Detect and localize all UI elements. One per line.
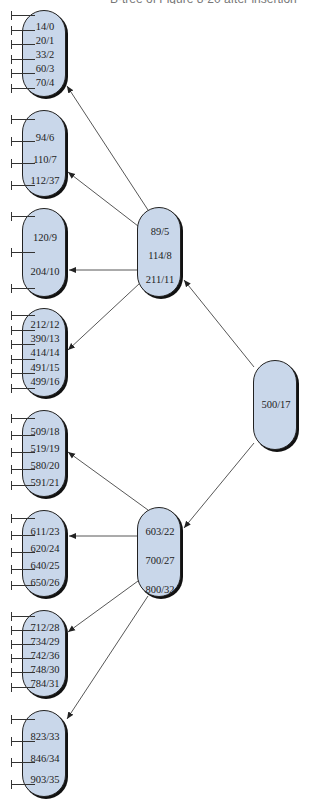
node-key: 94/6 [23, 132, 67, 144]
pointer-stub [11, 59, 35, 60]
leaf-node-1: 14/0 20/1 33/2 60/3 70/4 [22, 10, 66, 97]
edge-internal1-to-leaf2 [68, 172, 138, 226]
pointer-stub [11, 216, 35, 217]
pointer-stub [11, 518, 35, 519]
edge-internal2-to-leaf8 [67, 596, 148, 719]
pointer-stub [11, 418, 35, 419]
node-key: 519/19 [23, 443, 67, 455]
leaf-node-2: 94/6 110/7 112/37 [22, 110, 66, 197]
pointer-stub [11, 741, 35, 742]
pointer-stub [11, 252, 35, 253]
pointer-stub [11, 73, 35, 74]
pointer-stub [11, 315, 35, 316]
leaf-node-4: 212/12 390/13 414/14 491/15 499/16 [22, 308, 66, 397]
pointer-stub [11, 388, 35, 389]
pointer-stub [11, 163, 35, 164]
node-key: 591/21 [23, 477, 67, 489]
leaf-node-6: 611/23 620/24 640/25 650/26 [22, 510, 66, 597]
pointer-stub [11, 344, 35, 345]
leaf-node-7: 712/28 734/29 742/36 748/30 784/31 [22, 610, 66, 697]
pointer-stub [11, 88, 35, 89]
edge-root-to-internal-2 [184, 443, 254, 528]
edge-internal2-to-leaf5 [68, 452, 148, 510]
internal-node-2: 603/22 700/27 800/32 [137, 507, 181, 597]
node-key: 120/9 [23, 232, 67, 244]
pointer-stub [11, 672, 35, 673]
edge-internal1-to-leaf4 [68, 283, 140, 350]
node-key: 414/14 [23, 347, 67, 359]
pointer-stub [11, 469, 35, 470]
node-key: 110/7 [23, 154, 67, 166]
node-key: 700/27 [138, 555, 182, 567]
node-key: 509/18 [23, 426, 67, 438]
node-key: 204/10 [23, 266, 67, 278]
pointer-stub [11, 185, 35, 186]
node-key: 846/34 [23, 753, 67, 765]
pointer-stub [11, 630, 35, 631]
pointer-stub [11, 141, 35, 142]
node-key: 784/31 [23, 678, 67, 690]
pointer-stub [11, 585, 35, 586]
pointer-stub [11, 119, 35, 120]
node-key: 114/8 [138, 250, 182, 262]
node-key: 800/32 [138, 584, 182, 596]
pointer-stub [11, 616, 35, 617]
pointer-stub [11, 485, 35, 486]
node-key: 640/25 [23, 560, 67, 572]
node-key: 712/28 [23, 622, 67, 634]
node-key: 500/17 [254, 399, 298, 411]
node-key: 748/30 [23, 664, 67, 676]
pointer-stub [11, 658, 35, 659]
node-key: 20/1 [23, 35, 67, 47]
node-key: 650/26 [23, 577, 67, 589]
node-key: 580/20 [23, 460, 67, 472]
node-key: 211/11 [138, 274, 182, 286]
pointer-stub [11, 359, 35, 360]
node-key: 89/5 [138, 226, 182, 238]
pointer-stub [11, 535, 35, 536]
node-key: 611/23 [23, 526, 67, 538]
edge-root-to-internal-1 [184, 280, 254, 367]
pointer-stub [11, 330, 35, 331]
pointer-stub [11, 30, 35, 31]
node-key: 734/29 [23, 636, 67, 648]
pointer-stub [11, 687, 35, 688]
root-node: 500/17 [253, 360, 297, 450]
pointer-stub [11, 288, 35, 289]
pointer-stub [11, 644, 35, 645]
pointer-stub [11, 452, 35, 453]
edge-internal1-to-leaf1 [67, 86, 148, 210]
pointer-stub [11, 435, 35, 436]
node-key: 620/24 [23, 543, 67, 555]
node-key: 742/36 [23, 650, 67, 662]
node-key: 603/22 [138, 526, 182, 538]
node-key: 14/0 [23, 21, 67, 33]
pointer-stub [11, 784, 35, 785]
pointer-stub [11, 15, 35, 16]
pointer-stub [11, 44, 35, 45]
node-key: 499/16 [23, 376, 67, 388]
pointer-stub [11, 762, 35, 763]
pointer-stub [11, 719, 35, 720]
pointer-stub [11, 373, 35, 374]
pointer-stub [11, 569, 35, 570]
internal-node-1: 89/5 114/8 211/11 [137, 207, 181, 297]
pointer-stub [11, 552, 35, 553]
edge-internal2-to-leaf7 [68, 581, 138, 632]
leaf-node-5: 509/18 519/19 580/20 591/21 [22, 410, 66, 497]
